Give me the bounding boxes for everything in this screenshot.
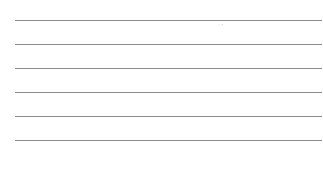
gridline [15, 92, 322, 93]
gridline [15, 20, 322, 21]
stray-dot [222, 24, 223, 25]
chart-area [0, 0, 323, 184]
gridline [15, 68, 322, 69]
gridline [15, 140, 322, 141]
gridline [15, 44, 322, 45]
gridline [15, 116, 322, 117]
